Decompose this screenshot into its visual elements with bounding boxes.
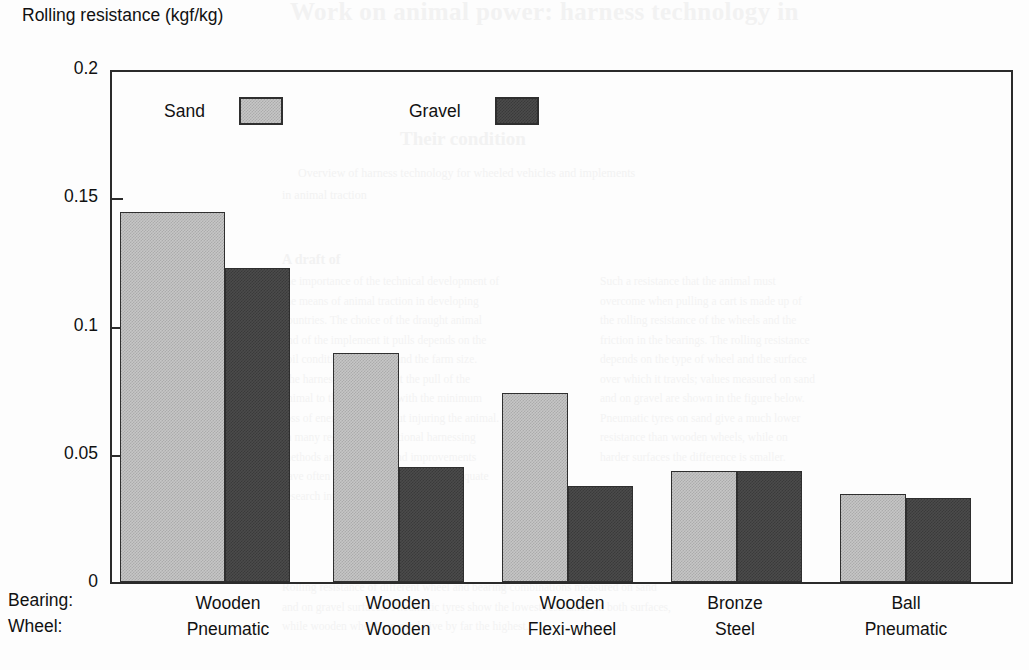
bleedthrough-title: Work on animal power: harness technology… [290, 0, 799, 26]
bar-gravel-bronze-steel[interactable] [737, 471, 802, 582]
x-category-ball-pneumatic: Ball Pneumatic [826, 590, 986, 642]
y-tick-0.15 [112, 198, 123, 200]
legend-item-sand[interactable]: Sand [164, 97, 283, 125]
plot-area: Sand Gravel [110, 70, 1013, 584]
x-category-bearing: Wooden [148, 590, 308, 616]
x-category-bearing: Wooden [487, 590, 657, 616]
legend-label-gravel: Gravel [409, 101, 461, 122]
x-category-wooden-wooden: Wooden Wooden [318, 590, 478, 642]
bar-sand-bronze-steel[interactable] [671, 471, 737, 582]
bar-gravel-ball-pneumatic[interactable] [906, 498, 971, 582]
x-category-wheel: Flexi-wheel [487, 616, 657, 642]
bar-gravel-wooden-pneumatic[interactable] [225, 268, 290, 582]
x-category-bearing: Ball [826, 590, 986, 616]
x-axis-row-header-wheel: Wheel: [8, 616, 62, 637]
x-category-bearing: Wooden [318, 590, 478, 616]
y-axis-title: Rolling resistance (kgf/kg) [22, 4, 223, 27]
x-category-bearing: Bronze [660, 590, 810, 616]
bar-gravel-wooden-wooden[interactable] [399, 467, 464, 582]
x-category-wheel: Pneumatic [148, 616, 308, 642]
plot-inner: Sand Gravel [112, 72, 1011, 582]
x-category-wooden-pneumatic: Wooden Pneumatic [148, 590, 308, 642]
x-category-wheel: Pneumatic [826, 616, 986, 642]
bar-sand-ball-pneumatic[interactable] [840, 494, 906, 582]
bar-sand-wooden-pneumatic[interactable] [120, 212, 225, 582]
x-category-wheel: Steel [660, 616, 810, 642]
legend-swatch-sand [239, 97, 283, 125]
bar-gravel-wooden-flexiwheel[interactable] [568, 486, 633, 582]
x-category-bronze-steel: Bronze Steel [660, 590, 810, 642]
bar-sand-wooden-wooden[interactable] [333, 353, 399, 583]
x-axis-row-header-bearing: Bearing: [8, 590, 73, 611]
chart-page: Work on animal power: harness technology… [0, 0, 1029, 670]
legend-label-sand: Sand [164, 101, 205, 122]
x-category-wooden-flexiwheel: Wooden Flexi-wheel [487, 590, 657, 642]
y-tick-label-0.1: 0.1 [6, 315, 98, 336]
legend-item-gravel[interactable]: Gravel [409, 97, 539, 125]
y-tick-label-0: 0 [6, 571, 98, 592]
bar-sand-wooden-flexiwheel[interactable] [502, 393, 568, 582]
x-category-wheel: Wooden [318, 616, 478, 642]
y-tick-label-0.15: 0.15 [6, 186, 98, 207]
y-tick-label-0.05: 0.05 [6, 443, 98, 464]
legend-swatch-gravel [495, 97, 539, 125]
y-tick-label-0.2: 0.2 [6, 58, 98, 79]
